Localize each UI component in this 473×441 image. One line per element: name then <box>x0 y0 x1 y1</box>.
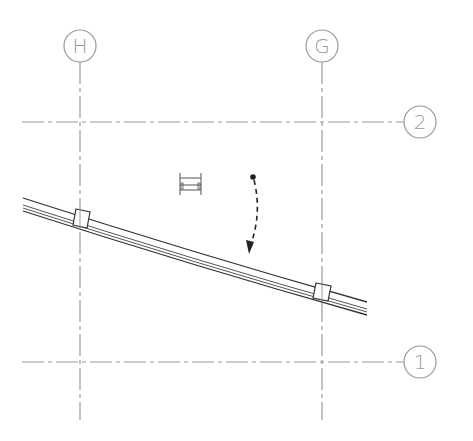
grid-label-h: H <box>72 34 87 58</box>
beam-section-symbol[interactable] <box>180 173 201 195</box>
arrow-shaft <box>251 180 257 244</box>
grid-label-g: G <box>314 34 330 58</box>
beam-bottom-edge <box>23 211 367 315</box>
gridline-2[interactable]: 2 <box>22 106 436 138</box>
span-direction-arrow[interactable] <box>246 174 257 254</box>
arrowhead-icon <box>246 240 254 254</box>
connection-plate-h[interactable] <box>73 209 90 228</box>
grid-label-2: 2 <box>414 110 427 134</box>
arrow-origin-dot <box>250 174 256 180</box>
connection-plate-g[interactable] <box>313 283 331 301</box>
drawing-canvas: H G 2 1 <box>0 0 473 441</box>
grid-label-1: 1 <box>414 350 427 374</box>
gridline-1[interactable]: 1 <box>22 346 436 378</box>
